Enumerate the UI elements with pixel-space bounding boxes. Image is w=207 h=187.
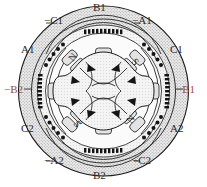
label-b1-top: B1 [93, 2, 106, 13]
slot-cluster-right [164, 74, 169, 108]
label-neg-a2: −A2 [44, 155, 64, 166]
label-c1: C1 [170, 44, 183, 55]
motor-cross-section-figure: N S S N B1 −C1 −A1 A1 C1 −B2 −B1 C2 A2 −… [0, 0, 207, 187]
label-a1: A1 [21, 44, 34, 55]
label-b2-bottom: B2 [93, 170, 106, 181]
label-c2: C2 [21, 123, 34, 134]
label-neg-b2: −B2 [4, 84, 23, 95]
label-a2: A2 [170, 123, 183, 134]
label-neg-c2: −C2 [132, 155, 151, 166]
label-neg-a1: −A1 [132, 15, 152, 26]
label-neg-c1: −C1 [44, 15, 63, 26]
slot-cluster-left [37, 74, 42, 108]
label-neg-b1: −B1 [176, 84, 195, 95]
